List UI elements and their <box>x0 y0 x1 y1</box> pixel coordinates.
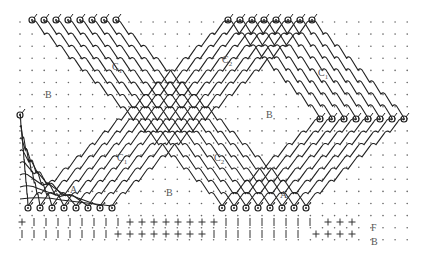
yarn-paths <box>20 21 404 206</box>
label-A-right: A <box>280 190 287 200</box>
label-C1-right: C1 <box>318 68 328 82</box>
label-text: B <box>371 236 378 247</box>
label-F-label: F <box>371 223 377 233</box>
label-C2-top: C2 <box>222 55 232 69</box>
label-text: B <box>266 109 273 120</box>
label-text: B <box>45 89 52 100</box>
label-B-bottom: B <box>371 237 378 247</box>
label-text: C <box>112 61 119 72</box>
label-subscript: 1 <box>119 67 123 75</box>
label-text: F <box>371 222 377 233</box>
stitch-diagram <box>0 0 422 258</box>
label-subscript: 2 <box>229 60 233 68</box>
label-B-left: B <box>45 90 52 100</box>
label-text: A <box>280 189 287 200</box>
label-C1-lower: C1 <box>117 153 127 167</box>
label-B-lower: B <box>166 188 173 198</box>
label-text: C <box>222 54 229 65</box>
label-B-center: B <box>266 110 273 120</box>
label-text: C <box>117 152 124 163</box>
label-text: C <box>318 67 325 78</box>
label-A-left: A <box>70 185 77 195</box>
label-subscript: 1 <box>124 158 128 166</box>
label-text: A <box>70 184 77 195</box>
label-subscript: 1 <box>325 73 329 81</box>
grid-dots <box>19 21 408 240</box>
label-text: B <box>166 187 173 198</box>
label-subscript: 2 <box>221 158 225 166</box>
label-text: C <box>214 152 221 163</box>
label-C1-left: C1 <box>112 62 122 76</box>
label-C2-lower: C2 <box>214 153 224 167</box>
